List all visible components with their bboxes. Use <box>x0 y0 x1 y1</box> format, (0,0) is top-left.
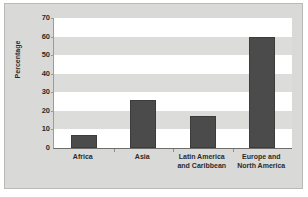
x-axis-category-label-line: North America <box>226 161 298 170</box>
bar-series <box>54 18 292 148</box>
plot-area <box>53 18 292 149</box>
y-axis-tick-mark <box>51 92 54 93</box>
chart-figure: Percentage 010203040506070 AfricaAsiaLat… <box>4 3 303 189</box>
y-axis-title: Percentage <box>14 27 21 93</box>
x-axis-category-label-line: Europe and <box>226 152 298 161</box>
bar <box>190 116 216 148</box>
x-axis-category-label: Europe andNorth America <box>226 152 298 170</box>
y-axis-tick-label: 0 <box>25 144 50 152</box>
y-axis-tick-label: 10 <box>25 125 50 133</box>
x-axis-category-labels: AfricaAsiaLatin Americaand CaribbeanEuro… <box>53 152 293 182</box>
bar <box>71 135 97 148</box>
y-axis-tick-label: 40 <box>25 70 50 78</box>
bar <box>249 37 275 148</box>
y-axis-tick-label: 70 <box>25 14 50 22</box>
y-axis-tick-label: 50 <box>25 51 50 59</box>
y-axis-tick-mark <box>51 111 54 112</box>
y-axis-tick-labels: 010203040506070 <box>25 17 50 152</box>
y-axis-tick-mark <box>51 74 54 75</box>
y-axis-tick-label: 60 <box>25 33 50 41</box>
y-axis-tick-label: 30 <box>25 88 50 96</box>
y-axis-tick-mark <box>51 55 54 56</box>
y-axis-tick-mark <box>51 18 54 19</box>
y-axis-tick-mark <box>51 129 54 130</box>
bar <box>130 100 156 148</box>
y-axis-tick-label: 20 <box>25 107 50 115</box>
y-axis-tick-mark <box>51 37 54 38</box>
